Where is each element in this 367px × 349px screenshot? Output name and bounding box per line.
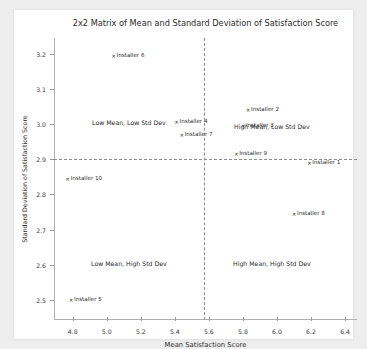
point-marker-icon: ✕ xyxy=(292,212,296,216)
x-tick xyxy=(107,317,108,321)
point-label: Installer 7 xyxy=(185,131,213,137)
y-tick xyxy=(50,89,54,90)
point-label: Installer 9 xyxy=(239,150,267,156)
point-marker-icon: ✕ xyxy=(66,177,70,181)
x-tick-label: 5.8 xyxy=(238,328,248,335)
axes: 4.85.05.25.45.65.86.06.26.42.52.62.72.82… xyxy=(54,38,357,320)
y-tick-label: 2.8 xyxy=(36,191,46,198)
quadrant-annotation: Low Mean, Low Std Dev xyxy=(92,119,166,126)
y-tick-label: 3.0 xyxy=(36,121,46,128)
point-label: Installer 3 xyxy=(246,122,274,128)
quadrant-annotation: Low Mean, High Std Dev xyxy=(91,260,167,267)
x-tick-label: 5.4 xyxy=(170,328,180,335)
point-marker-icon: ✕ xyxy=(69,298,73,302)
x-tick-label: 6.0 xyxy=(272,328,282,335)
x-tick-label: 5.6 xyxy=(204,328,214,335)
x-tick-label: 6.2 xyxy=(306,328,316,335)
x-tick xyxy=(311,317,312,321)
y-tick xyxy=(50,124,54,125)
point-label: Installer 5 xyxy=(74,296,102,302)
point-marker-icon: ✕ xyxy=(246,108,250,112)
point-label: Installer 4 xyxy=(180,118,208,124)
y-tick xyxy=(50,194,54,195)
point-label: Installer 6 xyxy=(117,52,145,58)
y-tick xyxy=(50,230,54,231)
x-tick xyxy=(277,317,278,321)
point-label: Installer 8 xyxy=(297,210,325,216)
point-marker-icon: ✕ xyxy=(112,54,116,58)
y-tick-label: 3.2 xyxy=(36,50,46,57)
point-marker-icon: ✕ xyxy=(307,161,311,165)
y-tick xyxy=(50,265,54,266)
y-tick xyxy=(50,300,54,301)
y-axis-spine xyxy=(54,38,55,320)
point-label: Installer 10 xyxy=(71,175,102,181)
y-tick-label: 2.7 xyxy=(36,226,46,233)
y-tick xyxy=(50,54,54,55)
chart-title: 2x2 Matrix of Mean and Standard Deviatio… xyxy=(54,18,357,28)
point-label: Installer 1 xyxy=(312,159,340,165)
figure-panel: 2x2 Matrix of Mean and Standard Deviatio… xyxy=(14,10,353,339)
x-axis-label: Mean Satisfaction Score xyxy=(54,341,357,349)
x-tick xyxy=(243,317,244,321)
plot-area: 2x2 Matrix of Mean and Standard Deviatio… xyxy=(54,38,357,320)
y-tick-label: 2.5 xyxy=(36,296,46,303)
quadrant-annotation: High Mean, High Std Dev xyxy=(233,260,311,267)
vertical-reference-line xyxy=(204,38,205,320)
x-tick-label: 5.0 xyxy=(102,328,112,335)
x-tick xyxy=(73,317,74,321)
x-tick-label: 4.8 xyxy=(68,328,78,335)
point-marker-icon: ✕ xyxy=(234,152,238,156)
y-tick-label: 2.6 xyxy=(36,261,46,268)
point-marker-icon: ✕ xyxy=(241,124,245,128)
point-label: Installer 2 xyxy=(251,106,279,112)
y-axis-label: Standard Deviation of Satisfaction Score xyxy=(21,115,28,242)
x-tick xyxy=(175,317,176,321)
x-tick xyxy=(141,317,142,321)
y-tick-label: 2.9 xyxy=(36,156,46,163)
x-tick xyxy=(345,317,346,321)
point-marker-icon: ✕ xyxy=(180,133,184,137)
x-tick xyxy=(209,317,210,321)
x-tick-label: 6.4 xyxy=(340,328,350,335)
point-marker-icon: ✕ xyxy=(175,120,179,124)
x-tick-label: 5.2 xyxy=(136,328,146,335)
y-tick-label: 3.1 xyxy=(36,85,46,92)
